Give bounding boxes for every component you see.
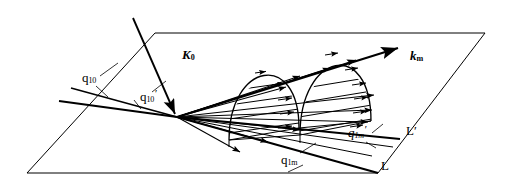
- q10-prime-label: q10′: [140, 88, 157, 104]
- q1m-prime-subscript: 1m: [355, 131, 365, 140]
- q10-prime-mark: ′: [154, 87, 156, 99]
- laue-line-L-label: L: [381, 159, 389, 172]
- q10-leader: [96, 63, 118, 97]
- q1m-prime-label: q1m′: [348, 124, 366, 140]
- incident-beam-subscript: 0: [191, 53, 195, 62]
- q10-label: q10: [82, 71, 96, 86]
- q1m-subscript: 1m: [288, 158, 298, 167]
- scattered-beam-subscript: m: [417, 54, 424, 63]
- q10-vector: [71, 88, 177, 117]
- q1m-prime-mark: ′: [364, 123, 366, 135]
- figure-root: K0 km q10 q10′ q1m q1m′ L L′: [0, 0, 510, 191]
- scattered-beam-label: km: [410, 49, 423, 64]
- q10-prime-vector: [59, 101, 177, 117]
- scattering-diagram: [0, 0, 510, 191]
- incident-beam-symbol: K: [182, 47, 191, 62]
- q1m-label: q1m: [281, 153, 297, 168]
- laue-line-L-prime-label: L′: [406, 124, 417, 137]
- incident-beam-label: K0: [182, 48, 195, 63]
- q10-subscript: 10: [89, 76, 97, 85]
